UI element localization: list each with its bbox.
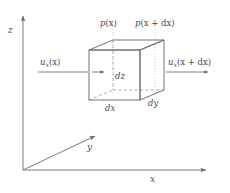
pressure-right-argument: (x + dx) — [140, 18, 174, 28]
velocity-left-subscript: x — [45, 61, 49, 68]
velocity-right-argument: (x + dx) — [177, 57, 211, 67]
pressure-left-label: p(x) — [100, 19, 117, 28]
velocity-left-argument: (x) — [49, 57, 60, 67]
velocity-right-label: ux(x + dx) — [168, 58, 211, 67]
pressure-left-argument: (x) — [105, 18, 116, 28]
cube-hidden-edges — [89, 40, 164, 100]
pressure-leader-group — [113, 29, 155, 93]
velocity-left-label: ux(x) — [40, 58, 60, 67]
cube-right-face — [140, 40, 164, 100]
y-axis-line — [23, 136, 95, 170]
dimension-dz-label: dz — [115, 72, 125, 81]
velocity-right-subscript: x — [173, 61, 177, 68]
dimension-dx-label: dx — [105, 104, 115, 113]
z-axis-label: z — [8, 26, 13, 35]
figure-container: z y x p(x) p(x + dx) ux(x) ux(x + dx) dz… — [0, 0, 230, 193]
dimension-dy-label: dy — [148, 99, 158, 108]
x-axis-label: x — [150, 175, 155, 184]
y-axis-label: y — [87, 143, 92, 152]
diagram-canvas — [0, 0, 230, 193]
cube-hidden-bottom-diagonal — [89, 90, 113, 100]
axis-group — [23, 16, 206, 170]
cube-visible-edges — [89, 40, 164, 100]
pressure-right-label: p(x + dx) — [135, 19, 175, 28]
